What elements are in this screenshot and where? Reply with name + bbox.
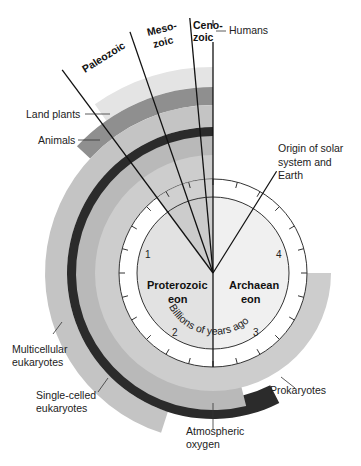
scale-number-3: 3 bbox=[253, 327, 259, 338]
archaean-label-2: eon bbox=[241, 293, 261, 305]
label-origin-2: system and bbox=[278, 156, 332, 168]
label-prokaryotes: Prokaryotes bbox=[270, 384, 326, 396]
archaean-label-1: Archaean bbox=[229, 279, 279, 291]
era-label-cenozoic-1: Ceno- bbox=[193, 19, 223, 31]
era-label-paleozoic: Paleozoic bbox=[80, 39, 128, 75]
label-single-celled-2: eukaryotes bbox=[36, 402, 87, 414]
label-multicellular-2: eukaryotes bbox=[12, 356, 63, 368]
label-origin-3: Earth bbox=[278, 169, 303, 181]
label-origin-1: Origin of solar bbox=[278, 142, 344, 154]
scale-number-4: 4 bbox=[276, 249, 282, 260]
scale-number-2: 2 bbox=[172, 327, 178, 338]
geologic-time-clock-diagram: Paleozoic Meso- zoic Ceno- zoic Proteroz… bbox=[0, 0, 361, 466]
label-land-plants: Land plants bbox=[26, 108, 80, 120]
label-animals: Animals bbox=[38, 134, 75, 146]
label-humans: Humans bbox=[229, 24, 268, 36]
label-multicellular-1: Multicellular bbox=[12, 343, 68, 355]
proterozoic-label-1: Proterozoic bbox=[147, 279, 208, 291]
label-oxygen-1: Atmospheric bbox=[186, 425, 244, 437]
scale-number-1: 1 bbox=[145, 249, 151, 260]
era-label-cenozoic-2: zoic bbox=[193, 31, 214, 43]
label-single-celled-1: Single-celled bbox=[36, 389, 96, 401]
label-oxygen-2: oxygen bbox=[186, 438, 220, 450]
